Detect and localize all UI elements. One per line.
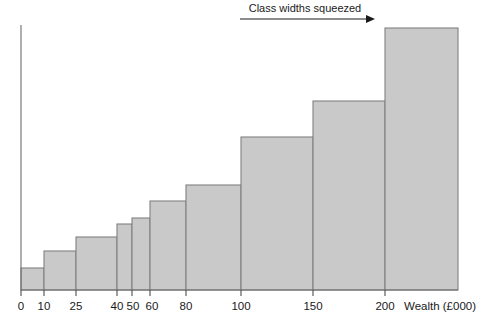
annotation-label: Class widths squeezed [249,2,362,14]
bar-0-10 [21,268,44,290]
bar-40-50 [117,224,132,290]
tick-label-80: 80 [180,300,193,312]
tick-label-0: 0 [18,300,24,312]
bar-150-200 [313,101,385,290]
tick-label-10: 10 [38,300,51,312]
bar-25-40 [76,237,117,290]
bar-10-25 [44,251,76,290]
tick-label-40: 40 [111,300,124,312]
bar-50-60 [132,218,150,290]
x-axis-title: Wealth (£000) [404,300,476,312]
tick-label-100: 100 [231,300,250,312]
chart-page: 0 10 25 40 50 60 80 100 150 200 Wealth (… [0,0,478,321]
tick-label-200: 200 [375,300,394,312]
bar-60-80 [150,201,186,290]
tick-label-50: 50 [127,300,140,312]
tick-label-150: 150 [303,300,322,312]
bar-200-plus [385,28,458,290]
bar-80-100 [186,185,241,290]
bar-100-150 [241,137,313,290]
histogram-chart: 0 10 25 40 50 60 80 100 150 200 Wealth (… [0,0,478,321]
tick-label-25: 25 [70,300,83,312]
tick-label-60: 60 [146,300,159,312]
